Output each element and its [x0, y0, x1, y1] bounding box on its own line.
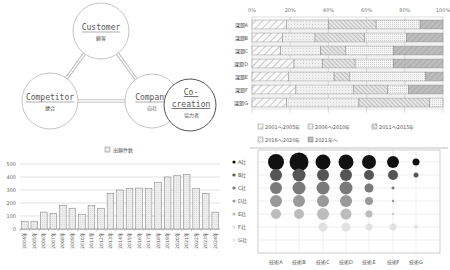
node-customer: Customer顧客: [73, 3, 129, 59]
bar-segment: [252, 85, 296, 94]
bubble: [317, 169, 329, 181]
node-competitor: Competitor競合: [22, 73, 78, 129]
bubble: [271, 209, 281, 219]
bar-segment: [359, 98, 430, 107]
legend-label: 出願件数: [113, 147, 133, 154]
x-tick-label: 技術C: [316, 259, 330, 266]
bubble: [293, 169, 306, 182]
bubble: [340, 169, 352, 181]
filings-bar-chart: 0100200300400500出願件数2004年2005年2006年2007年…: [6, 147, 220, 249]
bubble: [366, 224, 373, 231]
bar: [145, 189, 152, 229]
bar: [174, 176, 181, 229]
legend-label: F社: [238, 224, 246, 231]
x-tick-label: 技術E: [362, 259, 375, 266]
bar: [88, 206, 95, 229]
node-label-ja: 競合: [45, 105, 55, 112]
bar-segment: [353, 85, 387, 94]
legend: 2001～2005年2006～2010年2011～2015年2016～2020年…: [258, 124, 414, 144]
bubble: [390, 224, 397, 231]
legend-label: A社: [238, 159, 246, 166]
bar-segment: [288, 72, 334, 81]
bubble: [392, 187, 395, 190]
bubble: [319, 223, 328, 232]
category-label: 課題D: [234, 61, 248, 68]
bubble: [414, 173, 419, 178]
bar-segment: [393, 59, 443, 68]
x-tick-label: 0%: [248, 7, 256, 13]
bubble: [388, 170, 398, 180]
x-tick-label: 2017年: [145, 232, 152, 249]
x-tick-label: 2023年: [202, 232, 209, 249]
bubble: [294, 209, 304, 219]
bar-segment: [281, 46, 321, 55]
bar: [107, 193, 114, 229]
x-tick-label: 80%: [399, 7, 410, 13]
bar: [136, 188, 143, 229]
x-tick-label: 技術A: [269, 259, 283, 266]
bar-segment: [426, 72, 443, 81]
bubble: [387, 156, 399, 168]
x-tick-label: 技術D: [339, 259, 353, 266]
bar-segment: [376, 20, 420, 29]
x-tick-label: 20%: [285, 7, 296, 13]
y-tick-label: 100: [6, 213, 16, 219]
bubble: [392, 213, 394, 215]
node-label-en: creation: [172, 100, 211, 109]
x-tick-label: 2005年: [31, 232, 38, 249]
x-tick-label: 100%: [436, 7, 450, 13]
x-tick-label: 2011年: [88, 232, 95, 249]
bar-segment: [252, 20, 286, 29]
stacked-bar-chart: 0%20%40%60%80%100%課題A課題B課題C課題D課題E課題F課題G2…: [234, 7, 450, 148]
bar-segment: [286, 98, 359, 107]
bar-segment: [430, 98, 443, 107]
connector-line: [118, 53, 137, 79]
bar: [155, 182, 162, 229]
bar: [69, 208, 76, 229]
legend-marker: [232, 199, 235, 202]
bar-segment: [388, 85, 409, 94]
x-tick-label: 2015年: [126, 232, 133, 249]
bar-segment: [355, 59, 393, 68]
bar: [98, 208, 105, 229]
bubble: [342, 223, 351, 232]
x-tick-label: 2010年: [79, 232, 86, 249]
legend-label: 2011～2015年: [379, 124, 414, 131]
legend-swatch: [258, 124, 263, 129]
bar-segment: [315, 33, 365, 42]
legend-swatch: [105, 147, 110, 152]
bubble: [414, 225, 418, 229]
x-tick-label: 2009年: [69, 232, 76, 249]
x-tick-label: 2006年: [40, 232, 47, 249]
legend-label: 2016～2020年: [265, 137, 300, 144]
x-tick-label: 2024年: [212, 232, 219, 249]
bubble: [293, 195, 305, 207]
y-tick-label: 200: [6, 200, 16, 206]
legend-marker: [232, 212, 235, 215]
y-tick-label: 300: [6, 187, 16, 193]
connector-line: [67, 54, 85, 79]
bubble-chart: A社B社C社D社E社F社G社技術A技術B技術C技術D技術E技術F技術G: [232, 150, 440, 266]
bar: [79, 215, 86, 229]
category-label: 課題G: [234, 100, 248, 107]
x-tick-label: 2012年: [98, 232, 105, 249]
node-label-en: Competitor: [26, 93, 74, 102]
x-tick-label: 60%: [361, 7, 372, 13]
legend-label: C社: [238, 185, 247, 192]
bar-segment: [252, 72, 288, 81]
legend-swatch: [308, 137, 313, 142]
bar-segment: [252, 59, 294, 68]
legend-label: E社: [238, 211, 246, 218]
x-tick-label: 2004年: [21, 232, 28, 249]
node-cocreation: Co-creation協力者: [164, 79, 216, 131]
bubble: [268, 154, 284, 170]
node-label-en: Co-: [184, 88, 198, 97]
figure-canvas: Customer顧客Competitor競合Company自社Co-creati…: [0, 0, 450, 270]
category-label: 課題E: [235, 74, 248, 81]
3c-diagram: Customer顧客Competitor競合Company自社Co-creati…: [22, 3, 216, 131]
bar-segment: [283, 33, 315, 42]
legend-label: 2006～2010年: [315, 124, 350, 131]
x-tick-label: 2022年: [193, 232, 200, 249]
y-tick-label: 500: [6, 161, 16, 167]
x-tick-label: 2018年: [155, 232, 162, 249]
